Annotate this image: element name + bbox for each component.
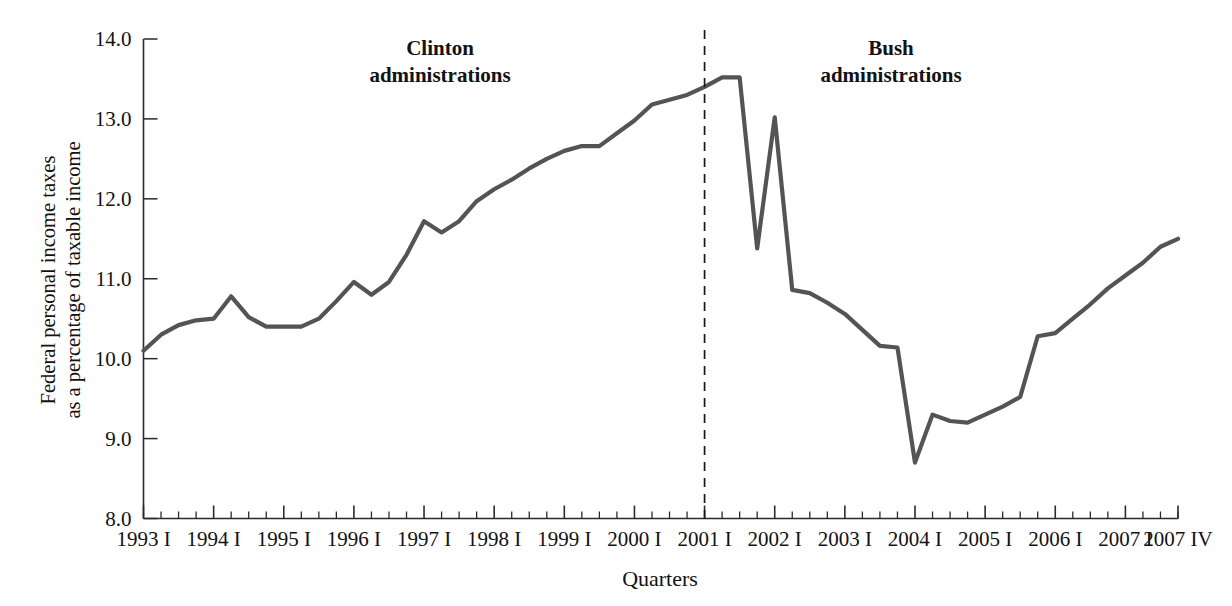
x-axis-ticks	[144, 506, 1179, 519]
x-tick-label: 1995 I	[257, 527, 311, 551]
y-tick-label: 9.0	[105, 427, 131, 451]
y-axis-ticks	[144, 39, 158, 519]
y-axis-title-line2: as a percentage of taxable income	[62, 141, 85, 418]
annotation-bush-line1: Bush	[868, 36, 914, 60]
x-tick-label: 2000 I	[607, 527, 661, 551]
y-axis-tick-labels: 14.013.012.011.010.09.08.0	[95, 27, 132, 531]
y-tick-label: 12.0	[95, 187, 132, 211]
x-tick-label: 2006 I	[1028, 527, 1082, 551]
y-tick-label: 13.0	[95, 107, 132, 131]
y-axis-title-line1: Federal personal income taxes	[37, 156, 60, 405]
chart-figure: 14.013.012.011.010.09.08.0 1993 I1994 I1…	[0, 0, 1232, 606]
x-tick-label: 1999 I	[537, 527, 591, 551]
annotation-clinton-line1: Clinton	[406, 36, 474, 60]
y-tick-label: 11.0	[96, 267, 132, 291]
line-chart-svg: 14.013.012.011.010.09.08.0 1993 I1994 I1…	[0, 0, 1232, 606]
x-tick-label: 1993 I	[116, 527, 170, 551]
x-tick-label: 2002 I	[748, 527, 802, 551]
x-tick-label: 1996 I	[327, 527, 381, 551]
annotation-bush-line2: administrations	[820, 63, 961, 87]
x-tick-label: 2007 IV	[1143, 527, 1212, 551]
annotation-clinton-line2: administrations	[369, 63, 510, 87]
x-axis-tick-labels: 1993 I1994 I1995 I1996 I1997 I1998 I1999…	[116, 527, 1212, 551]
x-tick-label: 2001 I	[677, 527, 731, 551]
x-tick-label: 2004 I	[888, 527, 942, 551]
y-tick-label: 14.0	[95, 27, 132, 51]
x-tick-label: 1998 I	[467, 527, 521, 551]
x-axis-title: Quarters	[622, 566, 698, 591]
x-tick-label: 1997 I	[397, 527, 451, 551]
x-tick-label: 2003 I	[818, 527, 872, 551]
data-series-line	[144, 77, 1179, 462]
x-tick-label: 1994 I	[187, 527, 241, 551]
x-tick-label: 2005 I	[958, 527, 1012, 551]
y-tick-label: 10.0	[95, 347, 132, 371]
